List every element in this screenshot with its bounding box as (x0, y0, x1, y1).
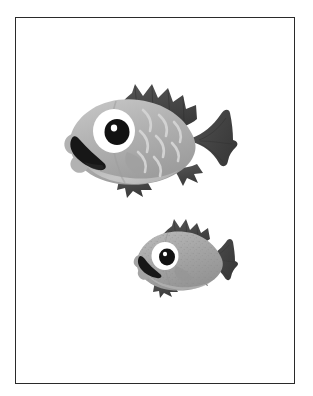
fish-layer (0, 0, 313, 396)
fish-illustration-svg (0, 0, 313, 396)
large-fish (64, 84, 237, 198)
small-fish-body (137, 231, 223, 290)
large-fish-tail-fin (192, 110, 237, 166)
illustration-canvas: Large fish Small fish Two cartoon fish i… (0, 0, 313, 396)
large-fish-eye (93, 109, 135, 153)
small-fish-eye (152, 242, 179, 270)
small-fish (134, 219, 238, 298)
